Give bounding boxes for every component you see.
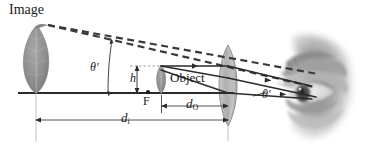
d-image-subscript: i: [128, 117, 130, 126]
theta-prime-left-label: θ′: [90, 61, 99, 73]
image-leaf: [23, 24, 48, 93]
optics-ray-diagram: Image Object θ′ θ′ h F dO di: [0, 0, 367, 150]
dimension-d-image: [35, 95, 229, 142]
image-label: Image: [9, 3, 44, 17]
d-object-label: dO: [186, 97, 198, 112]
focal-point-label: F: [143, 95, 150, 107]
object-label: Object: [170, 71, 205, 84]
d-object-subscript: O: [193, 103, 199, 112]
d-image-label: di: [121, 111, 130, 126]
eye-illustration: [277, 35, 354, 139]
theta-prime-right-label: θ′: [262, 88, 271, 100]
height-h-label: h: [130, 72, 136, 84]
angle-arc-left: [107, 39, 113, 97]
eye-highlight: [299, 87, 302, 90]
